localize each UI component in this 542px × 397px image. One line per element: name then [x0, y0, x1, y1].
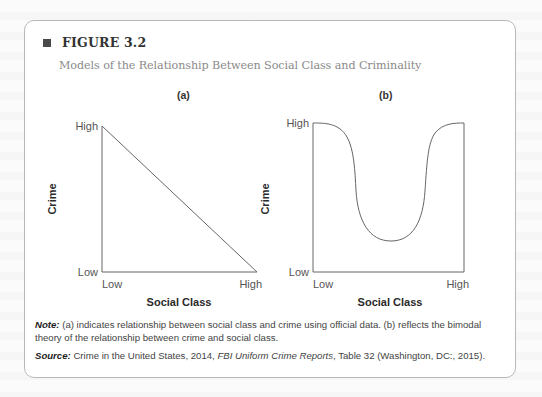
chart-b-x-low: Low — [313, 278, 333, 290]
chart-a-y-low: Low — [78, 266, 98, 278]
source-label: Source: — [35, 350, 71, 361]
chart-a-x-low: Low — [102, 278, 122, 290]
figure-source: Source: Crime in the United States, 2014… — [35, 349, 515, 362]
chart-a-line — [102, 126, 257, 272]
chart-a: High Low Low High Social Class Crime — [46, 120, 262, 308]
charts-svg: High Low Low High Social Class Crime Hig… — [25, 21, 517, 321]
chart-a-x-high: High — [239, 278, 262, 290]
chart-b-y-low: Low — [289, 266, 309, 278]
chart-b-ylabel: Crime — [259, 183, 271, 214]
chart-b: High Low Low High Social Class Crime — [259, 117, 469, 308]
figure-note: Note: (a) indicates relationship between… — [35, 318, 505, 344]
chart-b-x-high: High — [446, 278, 469, 290]
chart-a-xlabel: Social Class — [147, 296, 212, 308]
figure-container: FIGURE 3.2 Models of the Relationship Be… — [24, 20, 516, 378]
source-text-1: Crime in the United States, 2014, — [71, 350, 218, 361]
source-text-2: , Table 32 (Washington, DC:, 2015). — [333, 350, 485, 361]
chart-b-y-high: High — [286, 117, 309, 129]
chart-b-xlabel: Social Class — [358, 296, 423, 308]
note-text: (a) indicates relationship between socia… — [35, 319, 481, 343]
note-label: Note: — [35, 319, 60, 330]
chart-a-ylabel: Crime — [46, 183, 58, 214]
source-text-italic: FBI Uniform Crime Reports — [217, 350, 333, 361]
chart-a-y-high: High — [75, 120, 98, 132]
chart-b-curve — [313, 123, 464, 241]
